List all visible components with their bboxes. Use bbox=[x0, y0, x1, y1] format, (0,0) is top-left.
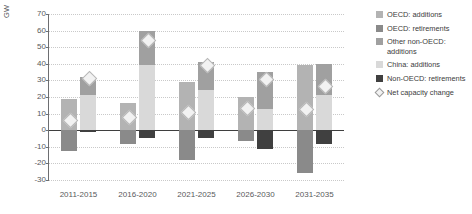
bar-nonoecd-retirements bbox=[80, 130, 96, 131]
legend-label: OECD: additions bbox=[387, 10, 442, 19]
bar-nonoecd-retirements bbox=[198, 130, 214, 138]
y-axis-ticks: 706050403020100-10-20-30 bbox=[22, 0, 46, 214]
bar-china-additions bbox=[316, 95, 332, 130]
gridline bbox=[49, 14, 344, 15]
y-tick-mark bbox=[46, 180, 49, 181]
y-tick-label: 50 bbox=[24, 43, 46, 51]
y-tick-mark bbox=[46, 163, 49, 164]
legend-label: Other non-OECD: additions bbox=[387, 37, 472, 55]
legend-label: Non-OECD: retirements bbox=[387, 74, 465, 83]
y-tick-label: 70 bbox=[24, 10, 46, 18]
gridline bbox=[49, 31, 344, 32]
y-tick-label: 0 bbox=[24, 126, 46, 134]
net-capacity-change-icon bbox=[375, 88, 385, 98]
legend-label: China: additions bbox=[387, 60, 440, 69]
y-tick-label: -20 bbox=[24, 159, 46, 167]
gridline bbox=[49, 180, 344, 181]
legend-swatch-icon bbox=[376, 61, 383, 68]
y-axis-title: GW bbox=[2, 5, 11, 18]
y-tick-mark bbox=[46, 114, 49, 115]
legend-item[interactable]: OECD: retirements bbox=[376, 24, 472, 33]
bar-china-additions bbox=[198, 90, 214, 130]
y-tick-mark bbox=[46, 80, 49, 81]
y-tick-label: 10 bbox=[24, 110, 46, 118]
y-tick-mark bbox=[46, 147, 49, 148]
y-tick-mark bbox=[46, 31, 49, 32]
bar-nonoecd-retirements bbox=[257, 130, 273, 149]
y-tick-label: 60 bbox=[24, 27, 46, 35]
bar-china-additions bbox=[139, 65, 155, 131]
legend-item[interactable]: Non-OECD: retirements bbox=[376, 74, 472, 83]
legend-item[interactable]: Other non-OECD: additions bbox=[376, 37, 472, 55]
x-tick-label: 2031-2035 bbox=[280, 190, 350, 199]
chart-root: GW 706050403020100-10-20-30 2011-2015201… bbox=[0, 0, 472, 214]
bar-nonoecd-retirements bbox=[316, 130, 332, 144]
y-tick-label: -30 bbox=[24, 176, 46, 184]
y-tick-label: 40 bbox=[24, 60, 46, 68]
y-tick-mark bbox=[46, 14, 49, 15]
y-tick-mark bbox=[46, 64, 49, 65]
bar-oecd-retirements bbox=[179, 130, 195, 160]
bar-oecd-additions bbox=[297, 65, 313, 130]
plot-area bbox=[49, 14, 344, 180]
bar-china-additions bbox=[80, 95, 96, 130]
legend-swatch-icon bbox=[376, 11, 383, 18]
bar-oecd-retirements bbox=[61, 130, 77, 151]
bar-oecd-retirements bbox=[238, 130, 254, 141]
legend-swatch-icon bbox=[376, 25, 383, 32]
chart-legend: OECD: additionsOECD: retirementsOther no… bbox=[376, 10, 472, 101]
legend-swatch-icon bbox=[376, 38, 383, 45]
bar-china-additions bbox=[257, 109, 273, 131]
legend-label: OECD: retirements bbox=[387, 24, 449, 33]
y-tick-label: 30 bbox=[24, 76, 46, 84]
y-tick-mark bbox=[46, 130, 49, 131]
gridline bbox=[49, 47, 344, 48]
legend-item[interactable]: China: additions bbox=[376, 60, 472, 69]
legend-swatch-icon bbox=[376, 75, 383, 82]
bar-oecd-retirements bbox=[120, 130, 136, 144]
y-tick-label: -10 bbox=[24, 143, 46, 151]
legend-item[interactable]: Net capacity change bbox=[376, 88, 472, 97]
bar-oecd-retirements bbox=[297, 130, 313, 173]
y-tick-label: 20 bbox=[24, 93, 46, 101]
y-tick-mark bbox=[46, 97, 49, 98]
legend-item[interactable]: OECD: additions bbox=[376, 10, 472, 19]
legend-label: Net capacity change bbox=[387, 88, 454, 97]
bar-nonoecd-retirements bbox=[139, 130, 155, 138]
y-tick-mark bbox=[46, 47, 49, 48]
